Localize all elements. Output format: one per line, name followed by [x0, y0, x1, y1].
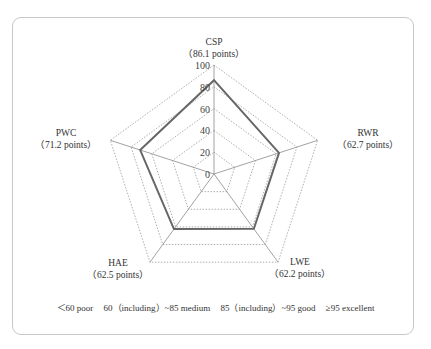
- axis-name: HAE: [87, 257, 149, 269]
- axis-label-lwe: LWE （62.2 points）: [269, 256, 331, 280]
- axis-spoke: [214, 140, 318, 174]
- legend-poor: ＜60 poor: [57, 303, 94, 313]
- axis-spoke: [110, 140, 214, 174]
- axis-name: RWR: [337, 127, 399, 139]
- axis-points: （71.2 points）: [35, 139, 97, 151]
- legend-excellent: ≥95 excellent: [326, 303, 375, 313]
- legend-medium: 60（including）~85 medium: [104, 303, 211, 313]
- tick-label: 0: [205, 169, 210, 180]
- score-legend: ＜60 poor 60（including）~85 medium 85（incl…: [0, 301, 431, 314]
- axis-points: （86.1 points）: [183, 48, 245, 60]
- legend-good: 85（including）~95 good: [220, 303, 315, 313]
- axis-name: CSP: [183, 36, 245, 48]
- axis-name: LWE: [269, 256, 331, 268]
- radar-spokes: [110, 65, 317, 262]
- tick-label: 80: [200, 82, 210, 93]
- tick-label: 20: [200, 147, 210, 158]
- axis-label-csp: CSP （86.1 points）: [183, 36, 245, 60]
- axis-points: （62.2 points）: [269, 268, 331, 280]
- axis-label-rwr: RWR （62.7 points）: [337, 127, 399, 151]
- tick-label: 60: [200, 104, 210, 115]
- tick-label: 100: [195, 60, 210, 71]
- axis-spoke: [150, 174, 214, 262]
- axis-name: PWC: [35, 127, 97, 139]
- axis-label-pwc: PWC （71.2 points）: [35, 127, 97, 151]
- tick-label: 40: [200, 125, 210, 136]
- axis-label-hae: HAE （62.5 points）: [87, 257, 149, 281]
- radial-tick-labels: 020406080100: [195, 60, 210, 180]
- axis-points: （62.7 points）: [337, 139, 399, 151]
- axis-points: （62.5 points）: [87, 269, 149, 281]
